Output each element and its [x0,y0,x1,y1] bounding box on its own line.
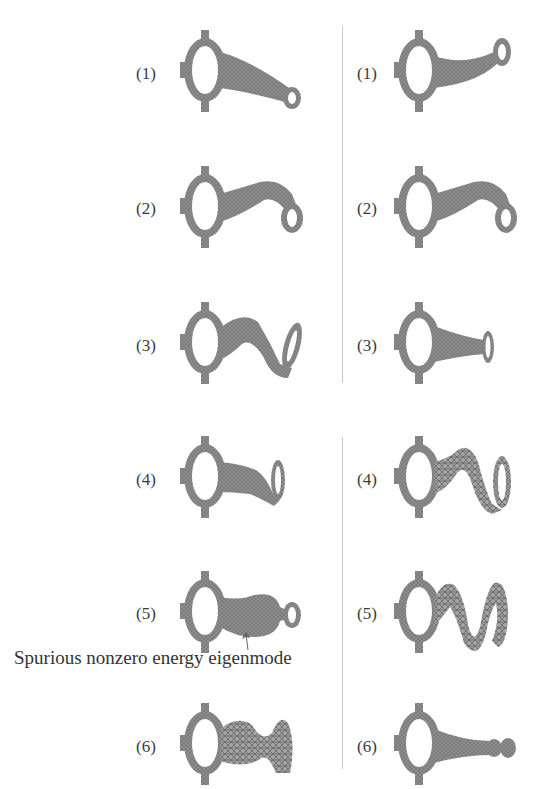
left-mode-6-shape [180,703,310,789]
right-mode-6-label: (6) [357,737,377,757]
column-divider-top [342,26,343,383]
right-mode-2-label: (2) [357,199,377,219]
right-mode-5-label: (5) [357,604,377,624]
right-mode-3-shape [394,302,524,392]
right-mode-6-shape [394,703,524,789]
right-mode-4-label: (4) [357,470,377,490]
left-mode-3-label: (3) [136,336,156,356]
left-mode-4-label: (4) [136,470,156,490]
right-mode-2-shape [394,166,524,256]
left-mode-6-label: (6) [136,737,156,757]
right-mode-1-label: (1) [357,64,377,84]
left-mode-1-label: (1) [136,64,156,84]
left-mode-4-shape [180,436,310,526]
right-mode-4-shape [394,436,524,526]
spurious-eigenmode-annotation: Spurious nonzero energy eigenmode [14,647,292,669]
left-mode-1-shape [180,30,310,120]
left-mode-5-label: (5) [136,604,156,624]
left-mode-3-shape [180,302,310,392]
right-mode-5-shape [394,571,524,661]
left-mode-2-shape [180,166,310,256]
left-mode-2-label: (2) [136,199,156,219]
right-mode-3-label: (3) [357,336,377,356]
right-mode-1-shape [394,30,524,120]
column-divider-bottom [342,437,343,769]
